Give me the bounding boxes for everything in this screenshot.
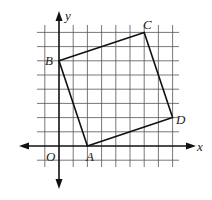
diagram-canvas: x y O A B C D [0, 0, 212, 200]
origin-label: O [46, 149, 56, 164]
coordinate-diagram: x y O A B C D [0, 0, 212, 200]
y-axis-arrow-down [56, 179, 63, 189]
y-axis-arrow-up [56, 11, 63, 21]
y-axis-label: y [63, 8, 71, 23]
point-label-b: B [45, 53, 53, 68]
x-axis-arrow-left [19, 143, 29, 150]
x-axis-label: x [196, 139, 203, 154]
x-axis-arrow-right [186, 143, 196, 150]
point-label-a: A [85, 149, 94, 164]
point-label-c: C [143, 17, 152, 32]
point-label-d: D [175, 112, 186, 127]
